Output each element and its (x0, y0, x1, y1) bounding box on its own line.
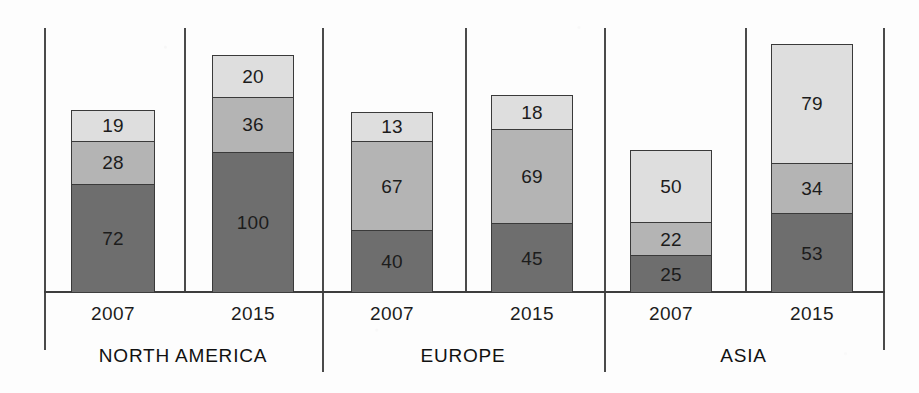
bar-segment-bottom: 25 (631, 255, 711, 292)
bar-segment-top: 20 (213, 56, 293, 97)
segment-value-label: 72 (102, 229, 124, 248)
stacked-bar-chart: 19 28 72 20 36 100 13 67 40 (0, 0, 919, 393)
separator-na-inner (184, 28, 186, 292)
year-label-na-2007: 2007 (63, 303, 163, 325)
bar-asia-2007: 50 22 25 (630, 150, 712, 292)
axis-line-right (883, 28, 885, 350)
year-label-europe-2015: 2015 (482, 303, 582, 325)
segment-value-label: 100 (237, 213, 269, 232)
bar-segment-top: 18 (492, 96, 572, 129)
segment-value-label: 79 (801, 94, 823, 113)
region-label-asia: ASIA (604, 345, 883, 367)
segment-value-label: 28 (102, 153, 124, 172)
bar-segment-middle: 34 (772, 163, 852, 214)
segment-value-label: 19 (102, 116, 124, 135)
segment-value-label: 45 (521, 249, 543, 268)
segment-value-label: 69 (521, 167, 543, 186)
bar-segment-top: 50 (631, 151, 711, 222)
segment-value-label: 18 (521, 103, 543, 122)
segment-value-label: 22 (660, 230, 682, 249)
axis-line-left (44, 28, 46, 350)
region-label-europe: EUROPE (322, 345, 604, 367)
bar-north-america-2015: 20 36 100 (212, 55, 294, 292)
segment-value-label: 53 (801, 244, 823, 263)
bar-segment-middle: 22 (631, 222, 711, 255)
bar-segment-middle: 36 (213, 97, 293, 152)
bar-segment-bottom: 100 (213, 152, 293, 292)
bar-segment-bottom: 45 (492, 223, 572, 292)
year-label-asia-2015: 2015 (762, 303, 862, 325)
bar-segment-middle: 69 (492, 129, 572, 224)
year-label-asia-2007: 2007 (621, 303, 721, 325)
separator-europe-asia (604, 28, 606, 372)
bar-north-america-2007: 19 28 72 (71, 110, 155, 292)
segment-value-label: 36 (242, 115, 264, 134)
bar-segment-bottom: 53 (772, 213, 852, 292)
bar-asia-2015: 79 34 53 (771, 44, 853, 292)
segment-value-label: 67 (381, 177, 403, 196)
segment-value-label: 13 (381, 117, 403, 136)
bar-segment-top: 79 (772, 45, 852, 163)
segment-value-label: 20 (242, 67, 264, 86)
bar-segment-bottom: 72 (72, 184, 154, 292)
segment-value-label: 34 (801, 179, 823, 198)
segment-value-label: 50 (660, 177, 682, 196)
bar-segment-middle: 67 (352, 141, 432, 231)
bar-europe-2007: 13 67 40 (351, 112, 433, 292)
bar-segment-bottom: 40 (352, 230, 432, 292)
region-label-north-america: NORTH AMERICA (44, 345, 322, 367)
bar-segment-middle: 28 (72, 141, 154, 184)
separator-na-europe (322, 28, 324, 372)
year-label-na-2015: 2015 (203, 303, 303, 325)
segment-value-label: 40 (381, 252, 403, 271)
bar-europe-2015: 18 69 45 (491, 95, 573, 292)
separator-europe-inner (465, 28, 467, 292)
baseline-axis (44, 291, 885, 293)
separator-asia-inner (745, 28, 747, 292)
year-label-europe-2007: 2007 (342, 303, 442, 325)
bar-segment-top: 13 (352, 113, 432, 141)
bar-segment-top: 19 (72, 111, 154, 141)
segment-value-label: 25 (660, 265, 682, 284)
